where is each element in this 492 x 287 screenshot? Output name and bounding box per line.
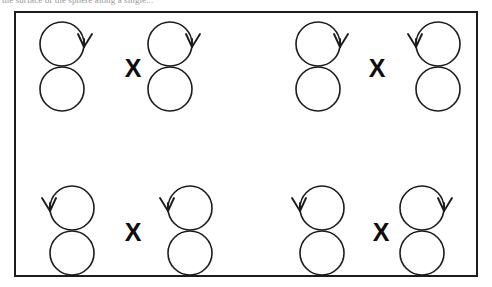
- figure-row-bottom: X: [16, 181, 476, 287]
- clipped-caption-text: the surface of the sphere along a single…: [2, 0, 153, 5]
- arrow-counter-clockwise-icon: [42, 198, 56, 211]
- figure-eight-1: [34, 17, 110, 121]
- figure-eight-8: [384, 181, 460, 285]
- arrow-clockwise-icon: [438, 198, 452, 211]
- operator-x-3: X: [120, 217, 146, 247]
- operator-x-2: X: [364, 53, 390, 83]
- arrow-counter-clockwise-icon: [408, 34, 422, 47]
- figure-row-top: X: [16, 17, 476, 127]
- clipped-caption-strip: the surface of the sphere along a single…: [0, 0, 492, 9]
- arrow-counter-clockwise-icon: [160, 198, 174, 211]
- figure-eight-6: [152, 181, 228, 285]
- figure-eight-7: [284, 181, 360, 285]
- arrow-counter-clockwise-icon: [292, 198, 306, 211]
- arrow-clockwise-icon: [334, 34, 348, 47]
- figure-eight-3: [290, 17, 366, 121]
- figure-panel: X: [14, 11, 478, 277]
- figure-eight-2: [142, 17, 218, 121]
- figure-eight-4: [390, 17, 466, 121]
- arrow-clockwise-icon: [78, 34, 92, 47]
- arrow-clockwise-icon: [186, 34, 200, 47]
- figure-eight-5: [34, 181, 110, 285]
